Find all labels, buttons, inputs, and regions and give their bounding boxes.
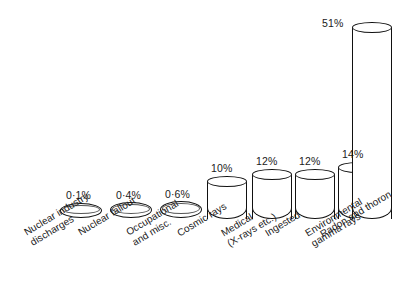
bar-top-cap-7 [352,22,392,33]
value-label-2: 0·6% [165,189,190,200]
value-label-7: 51% [322,18,343,29]
bar-top-cap-5 [295,169,335,180]
value-label-3: 10% [211,163,232,174]
radiation-exposure-bar-chart: 0·1%0·4%0·6%10%12%12%14%51% Nuclear indu… [0,0,407,302]
bar-5 [295,169,335,219]
category-label-0: Nuclear industry discharges [22,190,96,247]
bar-top-cap-3 [207,176,247,187]
value-label-5: 12% [299,156,320,167]
value-label-6: 14% [342,149,363,160]
value-label-4: 12% [256,156,277,167]
bar-top-cap-4 [252,169,292,180]
